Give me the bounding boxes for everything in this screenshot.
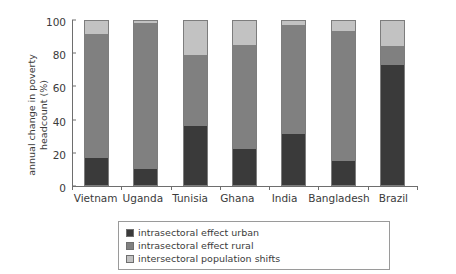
y-axis-title-line-2: headcount (%) xyxy=(38,30,50,200)
y-axis-tick-label: 40 xyxy=(53,115,66,127)
bar-slot xyxy=(171,20,220,186)
bar-segment[interactable] xyxy=(233,21,256,45)
x-axis-tick-label: Tunisia xyxy=(166,192,213,208)
y-axis-tick-label: 60 xyxy=(53,82,66,94)
x-axis-tick-mark xyxy=(417,186,418,190)
stacked-bar[interactable] xyxy=(133,20,158,186)
y-axis-tick: 40 xyxy=(53,110,72,129)
bar-slot xyxy=(121,20,170,186)
x-axis-tick-mark xyxy=(318,186,319,190)
bar-segment[interactable] xyxy=(184,55,207,126)
x-axis-tick-mark xyxy=(72,186,73,190)
bar-segment[interactable] xyxy=(332,161,355,185)
stacked-bar[interactable] xyxy=(281,20,306,186)
y-axis-tick: 0 xyxy=(59,177,72,196)
bar-segment[interactable] xyxy=(381,65,404,185)
bar-slot xyxy=(269,20,318,186)
x-axis-tick-label: Brazil xyxy=(370,192,417,208)
bar-slot xyxy=(220,20,269,186)
legend-swatch-icon xyxy=(126,229,134,237)
bar-segment[interactable] xyxy=(233,149,256,185)
bar-segment[interactable] xyxy=(332,31,355,161)
bar-segment[interactable] xyxy=(332,21,355,31)
bar-segment[interactable] xyxy=(282,134,305,185)
bar-segment[interactable] xyxy=(134,23,157,168)
bar-segment[interactable] xyxy=(184,21,207,55)
y-axis-tick: 100 xyxy=(46,11,72,30)
bar-segment[interactable] xyxy=(85,21,108,34)
y-axis-tick-label: 80 xyxy=(53,49,66,61)
legend-label: intrasectoral effect rural xyxy=(138,239,254,252)
stacked-bar[interactable] xyxy=(331,20,356,186)
y-axis-tick-label: 0 xyxy=(59,182,66,194)
legend-entry[interactable]: intrasectoral effect urban xyxy=(126,226,259,239)
legend-label: intersectoral population shifts xyxy=(138,252,280,265)
bar-slot xyxy=(318,20,367,186)
x-axis-tick-label: Vietnam xyxy=(72,192,119,208)
plot-area: 020406080100 xyxy=(72,20,417,186)
bar-segment[interactable] xyxy=(134,169,157,185)
bar-segment[interactable] xyxy=(184,126,207,185)
x-axis-tick-mark xyxy=(171,186,172,190)
bar-segment[interactable] xyxy=(233,45,256,149)
y-axis-tick: 80 xyxy=(53,44,72,63)
stacked-bar[interactable] xyxy=(380,20,405,186)
y-axis-title: annual change in poverty headcount (%) xyxy=(26,30,50,200)
x-axis-tick-label: Uganda xyxy=(119,192,166,208)
x-axis-tick-label: India xyxy=(261,192,308,208)
y-axis-title-line-1: annual change in poverty xyxy=(26,30,38,200)
x-axis-line xyxy=(72,186,418,187)
legend-swatch-icon xyxy=(126,255,134,263)
stacked-bar[interactable] xyxy=(232,20,257,186)
legend-label: intrasectoral effect urban xyxy=(138,226,259,239)
x-axis-tick-mark xyxy=(121,186,122,190)
stacked-bar-chart-figure: annual change in poverty headcount (%) 0… xyxy=(0,0,456,274)
bar-segment[interactable] xyxy=(85,158,108,185)
bar-segment[interactable] xyxy=(381,46,404,66)
chart-legend: intrasectoral effect urbanintrasectoral … xyxy=(118,221,390,270)
x-axis-label-group: VietnamUgandaTunisiaGhanaIndiaBangladesh… xyxy=(72,192,417,208)
x-axis-tick-label: Ghana xyxy=(214,192,261,208)
bar-segment[interactable] xyxy=(85,34,108,158)
bar-segment[interactable] xyxy=(282,25,305,134)
y-axis-tick-label: 20 xyxy=(53,148,66,160)
legend-entry[interactable]: intrasectoral effect rural xyxy=(126,239,254,252)
bar-slot xyxy=(72,20,121,186)
x-axis-tick-mark xyxy=(368,186,369,190)
y-axis-tick: 20 xyxy=(53,143,72,162)
y-axis-tick: 60 xyxy=(53,77,72,96)
stacked-bar[interactable] xyxy=(84,20,109,186)
bar-group xyxy=(72,20,417,186)
x-axis-tick-label: Bangladesh xyxy=(308,192,370,208)
bar-slot xyxy=(368,20,417,186)
legend-swatch-icon xyxy=(126,242,134,250)
x-axis-tick-mark xyxy=(269,186,270,190)
bar-segment[interactable] xyxy=(381,21,404,46)
y-axis-tick-label: 100 xyxy=(46,16,66,28)
stacked-bar[interactable] xyxy=(183,20,208,186)
legend-entry-list: intrasectoral effect urbanintrasectoral … xyxy=(126,226,383,265)
x-axis-tick-mark xyxy=(220,186,221,190)
legend-entry[interactable]: intersectoral population shifts xyxy=(126,252,280,265)
